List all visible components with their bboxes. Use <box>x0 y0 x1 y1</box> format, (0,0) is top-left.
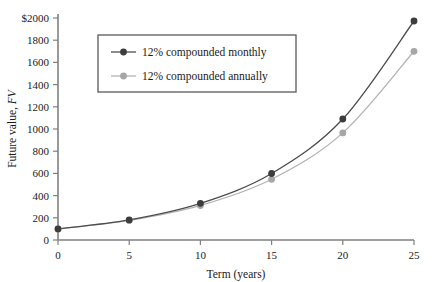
data-point-marker <box>411 18 418 25</box>
y-axis-tick-label: 600 <box>33 167 50 179</box>
legend-marker-sample <box>120 49 127 56</box>
data-point-marker <box>197 200 204 207</box>
data-point-marker <box>339 116 346 123</box>
legend-marker-sample <box>120 73 127 80</box>
y-axis-tick-label: 0 <box>44 234 50 246</box>
y-axis-tick-label: $2000 <box>22 12 50 24</box>
data-point-marker <box>268 170 275 177</box>
y-axis-tick-label: 400 <box>33 190 50 202</box>
compound-interest-chart: 020040060080010001200140016001800$200005… <box>0 0 432 282</box>
data-point-marker <box>411 48 418 55</box>
y-axis-tick-label: 1800 <box>27 34 50 46</box>
data-point-marker <box>55 226 62 233</box>
x-axis-tick-label: 5 <box>126 249 132 261</box>
y-axis-tick-label: 800 <box>33 145 50 157</box>
y-axis-tick-label: 200 <box>33 212 50 224</box>
x-axis-tick-label: 25 <box>409 249 421 261</box>
x-axis-tick-label: 20 <box>337 249 349 261</box>
data-point-marker <box>339 129 346 136</box>
x-axis-tick-label: 15 <box>266 249 278 261</box>
x-axis-title: Term (years) <box>207 268 266 281</box>
legend-box <box>98 35 296 92</box>
y-axis-tick-label: 1000 <box>27 123 50 135</box>
chart-canvas: 020040060080010001200140016001800$200005… <box>0 0 432 282</box>
x-axis-tick-label: 10 <box>195 249 207 261</box>
y-axis-tick-label: 1200 <box>27 101 50 113</box>
y-axis-tick-label: 1400 <box>27 79 50 91</box>
legend-item-label: 12% compounded annually <box>142 70 268 83</box>
y-axis-tick-label: 1600 <box>27 56 50 68</box>
data-point-marker <box>126 217 133 224</box>
x-axis-tick-label: 0 <box>55 249 61 261</box>
legend-item-label: 12% compounded monthly <box>142 46 267 59</box>
y-axis-title: Future value, FV <box>6 88 19 168</box>
